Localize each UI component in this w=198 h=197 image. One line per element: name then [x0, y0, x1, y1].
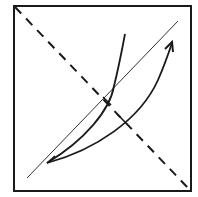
- steep-curve: [47, 34, 125, 163]
- tick-mark-2: [117, 114, 125, 122]
- diagram-canvas: [0, 0, 198, 197]
